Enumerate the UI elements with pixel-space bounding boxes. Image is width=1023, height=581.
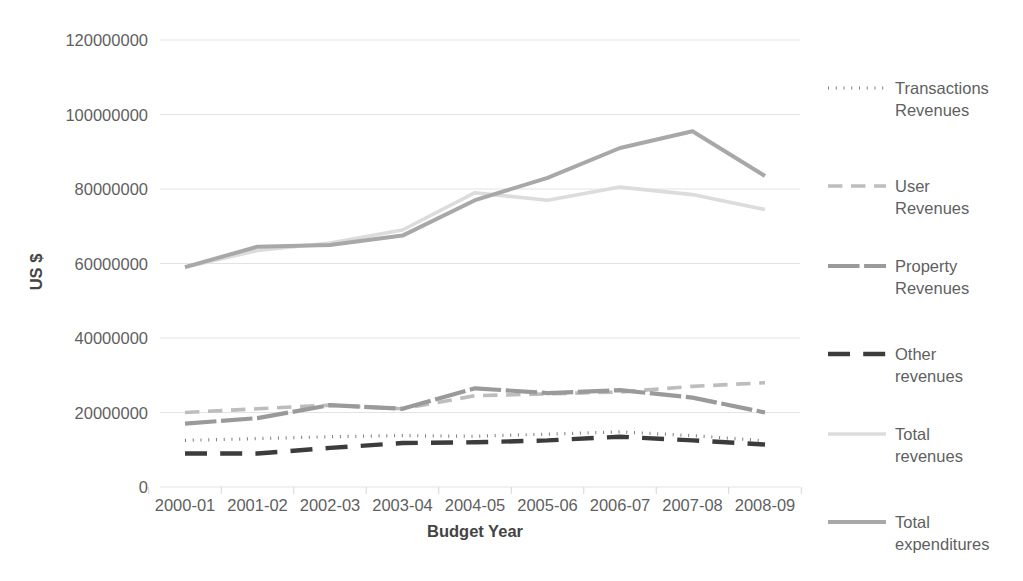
legend-item[interactable]: Totalexpenditures <box>828 513 989 553</box>
x-axis-ticks-group <box>149 487 802 494</box>
legend-label-line1: Property <box>895 257 958 275</box>
x-axis-tick-label: 2002-03 <box>300 496 361 514</box>
x-axis-tick-label: 2006-07 <box>590 496 651 514</box>
y-axis-tick-label: 80000000 <box>75 180 148 198</box>
y-axis-tick-label: 20000000 <box>75 404 148 422</box>
series-group <box>185 131 765 453</box>
chart-container: 0200000004000000060000000800000001000000… <box>0 0 1023 581</box>
line-chart-svg: 0200000004000000060000000800000001000000… <box>0 0 1023 581</box>
series-line-other-revenues <box>185 437 765 454</box>
legend-label-line2: Revenues <box>895 199 969 217</box>
legend-item[interactable]: Otherrevenues <box>828 345 963 385</box>
series-line-property-revenues <box>185 388 765 423</box>
x-axis-tick-label: 2003-04 <box>372 496 433 514</box>
legend-item[interactable]: Totalrevenues <box>828 425 963 465</box>
legend-label-line2: Revenues <box>895 101 969 119</box>
x-axis-tick-label: 2001-02 <box>227 496 288 514</box>
x-axis-title: Budget Year <box>427 522 524 540</box>
legend-item[interactable]: TransactionsRevenues <box>828 79 989 119</box>
y-axis-tick-label: 60000000 <box>75 255 148 273</box>
x-axis-tick-label: 2008-09 <box>735 496 796 514</box>
legend-label-line2: revenues <box>895 367 963 385</box>
plot-area: 0200000004000000060000000800000001000000… <box>0 0 1023 581</box>
x-axis-tick-label: 2005-06 <box>517 496 578 514</box>
y-axis-tick-label: 100000000 <box>65 106 148 124</box>
y-axis-title: US $ <box>27 254 45 291</box>
y-axis-tick-label: 40000000 <box>75 329 148 347</box>
x-axis-labels-group: 2000-012001-022002-032003-042004-052005-… <box>155 496 796 514</box>
legend-label-line1: Transactions <box>895 79 989 97</box>
y-axis-tick-label: 120000000 <box>65 31 148 49</box>
legend-label-line1: Total <box>895 425 930 443</box>
legend-label-line2: Revenues <box>895 279 969 297</box>
series-line-total-expenditures <box>185 131 765 267</box>
y-axis-tick-label: 0 <box>139 478 148 496</box>
legend-label-line2: expenditures <box>895 535 989 553</box>
x-axis-tick-label: 2007-08 <box>662 496 723 514</box>
legend-label-line1: Total <box>895 513 930 531</box>
legend-label-line2: revenues <box>895 447 963 465</box>
legend-item[interactable]: UserRevenues <box>828 177 969 217</box>
legend-label-line1: Other <box>895 345 937 363</box>
x-axis-tick-label: 2004-05 <box>445 496 506 514</box>
gridlines-group: 0200000004000000060000000800000001000000… <box>65 31 800 496</box>
x-axis-tick-label: 2000-01 <box>155 496 216 514</box>
legend: TransactionsRevenuesUserRevenuesProperty… <box>828 79 989 553</box>
legend-label-line1: User <box>895 177 930 195</box>
legend-item[interactable]: PropertyRevenues <box>828 257 969 297</box>
